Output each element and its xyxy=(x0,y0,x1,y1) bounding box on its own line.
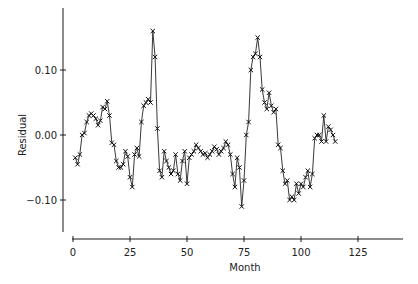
y-axis-label: Residual xyxy=(17,114,28,156)
x-tick-label: 0 xyxy=(70,247,76,258)
residual-chart: −0.100.000.10 0255075100125 Residual Mon… xyxy=(0,0,418,284)
data-point-marker xyxy=(96,123,100,127)
series-line xyxy=(75,31,335,207)
data-point-marker xyxy=(333,139,337,143)
data-point-marker xyxy=(167,165,171,169)
x-tick-label: 100 xyxy=(291,247,310,258)
x-axis: 0255075100125 xyxy=(70,236,403,258)
y-tick-label: 0.10 xyxy=(35,65,57,76)
series-residual xyxy=(73,29,337,209)
y-axis: −0.100.000.10 xyxy=(26,8,66,232)
x-tick-label: 25 xyxy=(124,247,137,258)
x-tick-label: 50 xyxy=(181,247,194,258)
y-tick-label: 0.00 xyxy=(35,130,57,141)
y-tick-label: −0.10 xyxy=(26,195,57,206)
x-tick-label: 75 xyxy=(238,247,251,258)
data-point-marker xyxy=(214,147,218,151)
x-tick-label: 125 xyxy=(348,247,367,258)
data-point-marker xyxy=(331,133,335,137)
data-point-marker xyxy=(73,156,77,160)
x-axis-label: Month xyxy=(229,262,260,273)
y-ticks: −0.100.000.10 xyxy=(26,65,66,206)
